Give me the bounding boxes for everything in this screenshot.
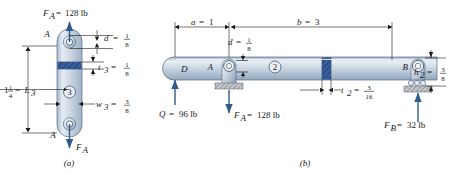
member-number-3-label: 3	[67, 87, 72, 97]
dimension-t3-equals: =	[111, 62, 116, 72]
dimension-b-equals: =	[305, 17, 310, 27]
force-FB-subscript: B	[391, 123, 397, 133]
dimension-L3-numerator: 1	[9, 84, 13, 92]
dimension-d-a-symbol: d	[104, 33, 109, 43]
member-number-3: 3	[64, 86, 76, 98]
dimension-h2-denominator: 8	[441, 75, 445, 83]
dimension-b-symbol: b	[297, 17, 302, 27]
dimension-t2-equals: =	[354, 85, 359, 95]
member-number-2: 2	[269, 61, 281, 73]
dimension-w3-denominator: 8	[125, 107, 129, 115]
dimension-a-value: 1	[209, 17, 214, 27]
force-FA-top-subscript: A	[49, 11, 56, 21]
label-A-beam: A	[207, 62, 214, 72]
dimension-d-a-numerator: 1	[125, 32, 129, 40]
force-FA-beam-equals: =	[247, 110, 252, 120]
dimension-d-b-numerator: 1	[247, 36, 251, 44]
caption-b: (b)	[300, 158, 311, 168]
force-FA-beam-symbol: F	[233, 110, 240, 120]
dimension-h2-equals: =	[427, 67, 432, 77]
dimension-w3-symbol: w	[96, 99, 102, 109]
force-FB-symbol: F	[383, 120, 390, 130]
dimension-L3-equals: =	[15, 85, 20, 95]
force-FB: F B = 32 lb	[383, 93, 426, 133]
force-Q-equals: =	[169, 109, 174, 119]
dimension-h2-symbol: h	[414, 67, 419, 77]
dimension-h2-subscript: 2	[420, 70, 425, 80]
dimension-w3-numerator: 3	[125, 98, 129, 106]
member-number-2-label: 2	[273, 62, 278, 72]
label-D: D	[180, 64, 188, 74]
dimension-d-a-equals: =	[113, 33, 118, 43]
force-Q-symbol: Q	[159, 109, 166, 119]
dimension-t2-denominator: 16	[366, 93, 374, 101]
label-A-top: A	[43, 29, 50, 39]
dimension-t3: t 3 = 1 8	[82, 55, 130, 78]
force-FA-top-value: 128 lb	[65, 8, 88, 18]
ground-hatch-B	[404, 86, 432, 92]
force-FA-bottom-subscript: A	[82, 145, 89, 155]
dimension-a-symbol: a	[191, 17, 196, 27]
label-B-beam: B	[403, 62, 409, 72]
dimension-t2-subscript: 2	[347, 88, 352, 98]
dimension-t2: t 2 = 3 16	[300, 80, 374, 101]
force-FA-beam-value: 128 lb	[257, 110, 280, 120]
force-FA-top-symbol: F	[42, 8, 49, 18]
dimension-d-b-denominator: 8	[247, 45, 251, 53]
dimension-a: a = 1	[175, 17, 230, 58]
dimension-b-value: 3	[315, 17, 320, 27]
dimension-t2-numerator: 3	[367, 84, 371, 92]
dimension-L3-subscript: 3	[30, 88, 36, 98]
section-cut-t2	[322, 57, 331, 79]
force-FA-top-equals: =	[56, 8, 61, 18]
section-cut-t3	[57, 62, 81, 69]
dimension-w3-subscript: 3	[103, 102, 109, 112]
dimension-t2-symbol: t	[341, 85, 344, 95]
force-FA-beam-subscript: A	[240, 113, 247, 123]
dimension-t3-symbol: t	[98, 62, 101, 72]
dimension-d-a-denominator: 8	[125, 41, 129, 49]
force-Q-value: 96 lb	[179, 109, 198, 119]
dimension-d-b-symbol: d	[228, 37, 233, 47]
dimension-t3-denominator: 8	[125, 70, 129, 78]
engineering-figure: 3 A A F A = 128 lb F A 1	[0, 0, 451, 174]
panel-b-beam: D 2 A B	[159, 17, 446, 169]
beam-body	[163, 57, 438, 80]
force-FA-beam: F A = 128 lb	[229, 90, 280, 123]
ground-hatch-A	[215, 83, 243, 89]
dimension-L3-symbol: L	[24, 85, 30, 95]
dimension-t3-numerator: 1	[125, 61, 129, 69]
dimension-b: b = 3	[231, 17, 393, 61]
caption-a: (a)	[64, 158, 75, 168]
force-FB-equals: =	[397, 120, 402, 130]
dimension-h2-numerator: 3	[441, 66, 445, 74]
dimension-d-b-equals: =	[236, 37, 241, 47]
panel-a-link: 3 A A F A = 128 lb F A 1	[0, 8, 130, 168]
dimension-t3-subscript: 3	[103, 65, 109, 75]
label-A-bottom: A	[49, 130, 56, 140]
dimension-w3-equals: =	[111, 99, 116, 109]
dimension-a-equals: =	[199, 17, 204, 27]
force-FB-value: 32 lb	[407, 120, 426, 130]
force-FA-bottom-symbol: F	[75, 142, 82, 152]
dimension-L3-denominator: 4	[9, 92, 13, 100]
force-Q: Q = 96 lb	[159, 80, 198, 119]
